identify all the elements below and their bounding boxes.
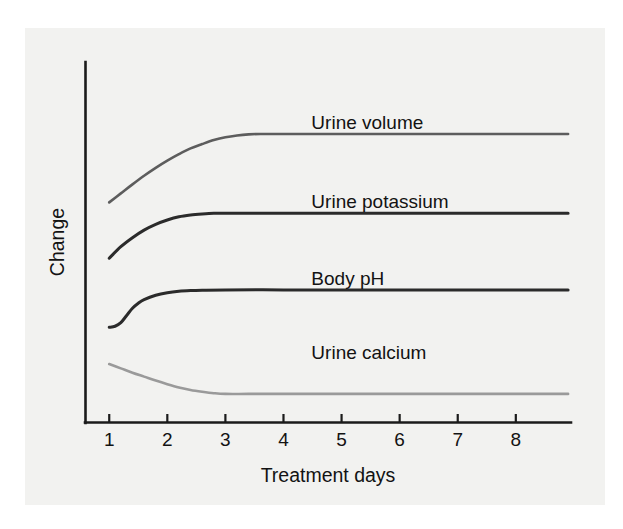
x-tick-label-7: 7 bbox=[452, 429, 463, 450]
series-label-urine-volume: Urine volume bbox=[311, 112, 423, 133]
x-tick-label-4: 4 bbox=[278, 429, 289, 450]
series-line-urine-calcium bbox=[109, 364, 568, 394]
figure-root: 12345678 Urine volumeUrine potassiumBody… bbox=[0, 0, 623, 529]
x-axis-title: Treatment days bbox=[261, 464, 396, 486]
x-tick-label-6: 6 bbox=[394, 429, 405, 450]
x-tick-label-1: 1 bbox=[104, 429, 115, 450]
y-axis-title: Change bbox=[46, 208, 68, 276]
x-tick-label-2: 2 bbox=[162, 429, 173, 450]
x-tick-label-5: 5 bbox=[336, 429, 347, 450]
x-tick-label-8: 8 bbox=[511, 429, 522, 450]
series-label-urine-potassium: Urine potassium bbox=[311, 191, 448, 212]
series-inline-labels: Urine volumeUrine potassiumBody pHUrine … bbox=[311, 112, 448, 363]
series-label-urine-calcium: Urine calcium bbox=[311, 342, 426, 363]
line-chart: 12345678 Urine volumeUrine potassiumBody… bbox=[0, 0, 623, 529]
series-line-urine-potassium bbox=[109, 213, 568, 258]
x-axis-tick-labels: 12345678 bbox=[104, 429, 521, 450]
x-axis-ticks bbox=[109, 414, 516, 422]
series-line-body-ph bbox=[109, 290, 568, 327]
x-tick-label-3: 3 bbox=[220, 429, 231, 450]
series-label-body-ph: Body pH bbox=[311, 268, 384, 289]
